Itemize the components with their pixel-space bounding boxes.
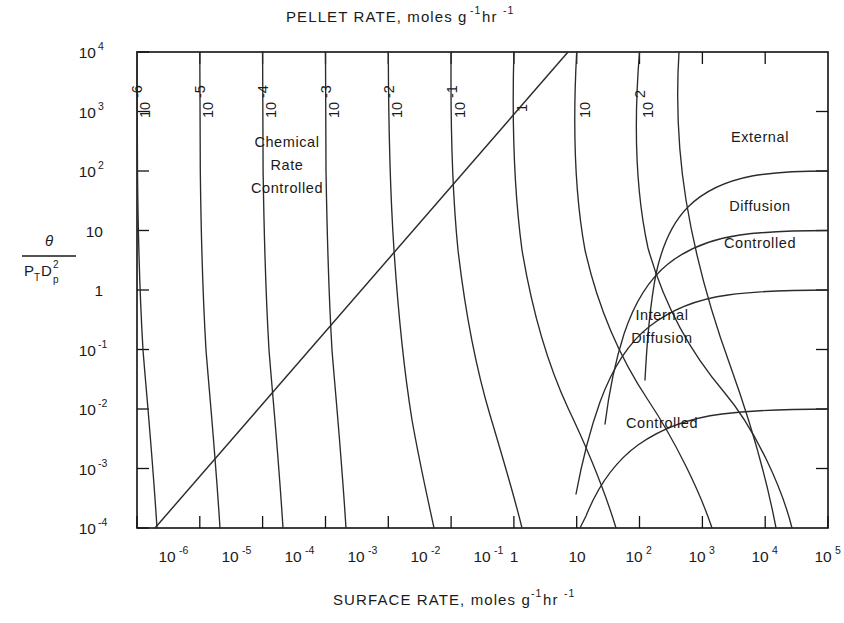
chemical-line-3: Controlled bbox=[251, 180, 323, 196]
x-tick-label-10: 10 bbox=[568, 548, 586, 565]
curve-label-10e-3: 10 bbox=[326, 102, 342, 118]
curve-labels: 10 -6 10 -5 10 -4 10 -3 10 -2 10 -1 1 10 bbox=[129, 85, 656, 118]
y-tick-label-10e3: 10 3 bbox=[79, 100, 104, 121]
chart-title-text: PELLET RATE, moles g bbox=[286, 8, 468, 25]
svg-text:10: 10 bbox=[284, 548, 302, 565]
chart-title: PELLET RATE, moles g -1 hr -1 bbox=[286, 4, 515, 25]
curve-label-10e-6: 10 bbox=[137, 102, 153, 118]
svg-text:10: 10 bbox=[625, 548, 643, 565]
chart-svg: PELLET RATE, moles g -1 hr -1 bbox=[0, 0, 844, 623]
internal-line-3: Controlled bbox=[626, 415, 698, 431]
y-axis-ticks bbox=[137, 52, 149, 528]
y-axis-label: θ P T D p 2 bbox=[22, 232, 76, 285]
y-axis-label-d: D bbox=[41, 262, 52, 279]
x-tick-label-10e5: 10 5 bbox=[814, 544, 841, 565]
svg-text:-6: -6 bbox=[179, 544, 188, 556]
x-tick-label-10e-5: 10 -5 bbox=[221, 544, 251, 565]
curve-label-10e-1: 10 bbox=[452, 102, 468, 118]
svg-text:-2: -2 bbox=[98, 397, 107, 409]
y-axis-label-sub-p: p bbox=[53, 274, 59, 285]
svg-text:-5: -5 bbox=[242, 544, 251, 556]
plot-frame bbox=[137, 52, 828, 528]
boundary-internal-lower bbox=[576, 290, 828, 494]
svg-text:2: 2 bbox=[646, 544, 652, 556]
svg-text:-3: -3 bbox=[368, 544, 377, 556]
internal-line-2: Diffusion bbox=[631, 330, 693, 346]
svg-text:10: 10 bbox=[86, 223, 104, 240]
curve-10e-4 bbox=[263, 52, 283, 528]
curve-label-10e-5: 10 bbox=[200, 102, 216, 118]
curve-label-1: 1 bbox=[514, 104, 530, 112]
svg-text:10: 10 bbox=[79, 401, 97, 418]
figure-container: PELLET RATE, moles g -1 hr -1 bbox=[0, 0, 844, 623]
svg-text:4: 4 bbox=[772, 544, 778, 556]
svg-text:10: 10 bbox=[79, 163, 97, 180]
boundary-controlled-lower bbox=[580, 409, 828, 528]
x-axis-label-main: SURFACE RATE, moles g bbox=[333, 591, 531, 608]
curve-label-10e-4: 10 bbox=[263, 102, 279, 118]
x-tick-label-10e-6: 10 -6 bbox=[158, 544, 188, 565]
curve-10e-3 bbox=[326, 52, 347, 528]
y-axis-label-sub-t: T bbox=[34, 272, 40, 283]
region-label-internal-diffusion-controlled: Internal Diffusion Controlled bbox=[626, 307, 698, 431]
y-axis-label-numerator: θ bbox=[45, 232, 53, 249]
chart-title-sup1: -1 bbox=[470, 4, 482, 16]
chart-title-sup2: -1 bbox=[503, 4, 515, 16]
svg-text:-4: -4 bbox=[98, 516, 107, 528]
curve-label-10e-3-exp: -3 bbox=[318, 85, 334, 98]
boundary-external-steep bbox=[678, 52, 776, 528]
svg-text:10: 10 bbox=[221, 548, 239, 565]
svg-text:10: 10 bbox=[410, 548, 428, 565]
y-axis-label-sup-2: 2 bbox=[53, 259, 59, 270]
x-axis-label-sup2: -1 bbox=[564, 587, 576, 599]
external-line-1: External bbox=[731, 129, 789, 145]
x-tick-label-10e-3: 10 -3 bbox=[347, 544, 377, 565]
svg-text:4: 4 bbox=[98, 40, 104, 52]
svg-text:-2: -2 bbox=[431, 544, 440, 556]
curve-label-10e-4-exp: -4 bbox=[255, 85, 271, 98]
svg-text:10: 10 bbox=[814, 548, 832, 565]
chemical-line-2: Rate bbox=[270, 157, 303, 173]
x-tick-labels: 10 -6 10 -5 10 -4 10 -3 10 -2 10 -1 1 10 bbox=[158, 544, 841, 565]
svg-text:-4: -4 bbox=[305, 544, 314, 556]
y-tick-label-10e-3: 10 -3 bbox=[79, 457, 108, 478]
y-tick-label-10: 10 bbox=[86, 223, 104, 240]
svg-text:1: 1 bbox=[510, 548, 519, 565]
iso-pellet-rate-curves bbox=[137, 52, 792, 528]
svg-text:5: 5 bbox=[835, 544, 841, 556]
curve-label-10: 10 bbox=[577, 102, 593, 118]
y-tick-labels: 10 4 10 3 10 2 10 1 10 -1 10 -2 10 -3 bbox=[79, 40, 108, 537]
curve-label-10e2-exp: 2 bbox=[632, 90, 648, 98]
internal-line-1: Internal bbox=[635, 307, 688, 323]
y-tick-label-10e-1: 10 -1 bbox=[79, 338, 108, 359]
svg-text:10: 10 bbox=[158, 548, 176, 565]
curve-1 bbox=[513, 52, 616, 528]
region-boundary-curves bbox=[576, 52, 828, 528]
y-tick-label-10e2: 10 2 bbox=[79, 159, 104, 180]
diagonal-reference-line bbox=[155, 52, 568, 528]
svg-text:-3: -3 bbox=[98, 457, 107, 469]
x-axis-ticks-top bbox=[200, 52, 765, 64]
svg-text:10: 10 bbox=[79, 461, 97, 478]
chart-title-mid: hr bbox=[482, 8, 498, 25]
x-tick-label-10e-4: 10 -4 bbox=[284, 544, 314, 565]
svg-text:-1: -1 bbox=[494, 544, 503, 556]
curve-10e2 bbox=[636, 52, 792, 528]
svg-text:1: 1 bbox=[94, 282, 103, 299]
curve-label-10e-5-exp: -5 bbox=[192, 85, 208, 98]
curve-label-10e-2: 10 bbox=[389, 102, 405, 118]
svg-text:3: 3 bbox=[709, 544, 715, 556]
chemical-line-1: Chemical bbox=[254, 134, 319, 150]
y-tick-label-10e4: 10 4 bbox=[79, 40, 104, 61]
region-label-chemical-rate-controlled: Chemical Rate Controlled bbox=[251, 134, 323, 196]
curve-label-10e-1-exp: -1 bbox=[444, 85, 460, 98]
y-tick-label-10e-2: 10 -2 bbox=[79, 397, 108, 418]
x-tick-label-10e-1: 10 -1 bbox=[473, 544, 503, 565]
x-tick-label-10e2: 10 2 bbox=[625, 544, 652, 565]
svg-text:10: 10 bbox=[79, 104, 97, 121]
curve-label-10e2: 10 bbox=[640, 102, 656, 118]
external-line-2: Diffusion bbox=[729, 198, 791, 214]
curve-label-10e-2-exp: -2 bbox=[381, 85, 397, 98]
x-axis-label-mid: hr bbox=[543, 591, 559, 608]
svg-text:3: 3 bbox=[98, 100, 104, 112]
